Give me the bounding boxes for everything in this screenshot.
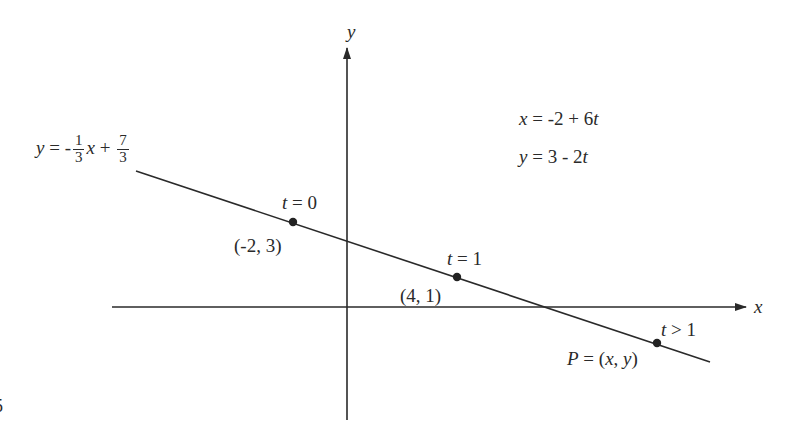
- parametric-y-equation: y = 3 - 2t: [519, 147, 588, 166]
- eq-sign: = -: [49, 137, 71, 158]
- y-axis-label: y: [347, 22, 355, 41]
- point-p: [653, 339, 661, 347]
- point-t0: [289, 218, 297, 226]
- line-equation: y = -13x + 73: [36, 133, 131, 166]
- fraction-one-third: 13: [73, 133, 85, 166]
- point-t1: [453, 273, 461, 281]
- t1-label: t = 1: [447, 249, 482, 268]
- parametric-line: [136, 171, 710, 362]
- fraction-seven-thirds: 73: [117, 133, 129, 166]
- t0-coord-label: (-2, 3): [234, 236, 281, 255]
- eq-lhs: y: [36, 137, 44, 158]
- t1-coord-label: (4, 1): [400, 286, 441, 305]
- x-axis-label: x: [754, 297, 762, 316]
- eq-plus: +: [100, 137, 111, 158]
- tgt1-label: t > 1: [661, 320, 696, 339]
- p-coord-label: P = (x, y): [567, 349, 638, 368]
- diagram-canvas: [0, 0, 790, 436]
- page-number-fragment: 5: [0, 397, 3, 415]
- parametric-x-equation: x = -2 + 6t: [519, 109, 598, 128]
- eq-var: x: [86, 137, 94, 158]
- t0-label: t = 0: [282, 193, 317, 212]
